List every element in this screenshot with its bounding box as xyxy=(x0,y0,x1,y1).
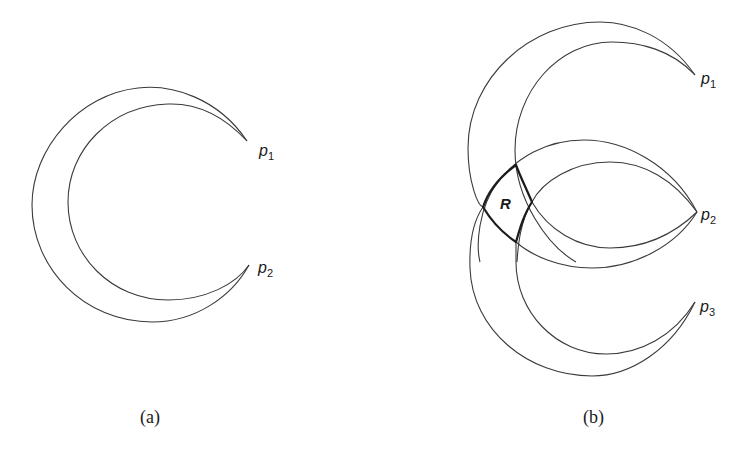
caption-a: (a) xyxy=(140,407,160,428)
caption-b: (b) xyxy=(583,407,604,428)
label-p2: p2 xyxy=(700,206,716,226)
crescent-p2-lower-inner-arc xyxy=(532,202,697,248)
crescent-p1-outer-arc xyxy=(468,22,695,207)
crescent-p2-outer-arc xyxy=(478,140,697,262)
label-p1: p1 xyxy=(700,70,716,90)
crescent-p1-inner-arc xyxy=(515,42,695,262)
label-p2: p2 xyxy=(257,259,273,279)
region-r-label: R xyxy=(500,195,511,212)
panel-b: R p1 p2 p3 (b) xyxy=(468,22,716,428)
panel-a: p1 p2 (a) xyxy=(32,87,274,428)
crescent-p2-inner-arc xyxy=(517,162,697,262)
label-p3: p3 xyxy=(699,298,715,318)
crescent-p1-outer-arc xyxy=(32,87,249,322)
label-p1: p1 xyxy=(258,142,274,162)
figure-canvas: p1 p2 (a) R p1 p2 p3 (b) xyxy=(0,0,742,452)
crescent-p2-lower-outer-arc xyxy=(516,212,697,268)
crescent-p1-inner-arc xyxy=(68,104,249,300)
